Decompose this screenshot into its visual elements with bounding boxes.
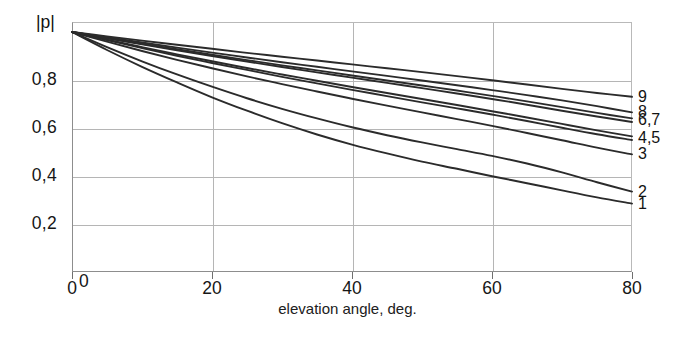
gridline-horizontal [73, 225, 631, 226]
x-axis-tick-label: 60 [462, 278, 522, 299]
x-axis-tick-label: 0 [42, 278, 102, 299]
x-axis-tick-label: 40 [322, 278, 382, 299]
chart-figure: |p| 00,20,40,60,8 020406080 986,74,5321 … [0, 0, 695, 341]
gridline-horizontal [73, 129, 631, 130]
y-axis-title: |p| [36, 12, 55, 33]
gridline-horizontal [73, 177, 631, 178]
y-axis-tick-label: 0,4 [32, 165, 57, 186]
x-axis-title: elevation angle, deg. [0, 300, 695, 317]
curve-end-label: 3 [638, 146, 647, 162]
curve-end-label: 4,5 [638, 130, 660, 146]
gridline-vertical [213, 23, 214, 271]
y-axis-tick-label: 0,8 [32, 69, 57, 90]
y-axis-tick-label: 0,2 [32, 213, 57, 234]
gridline-horizontal [73, 81, 631, 82]
curve-end-label: 6,7 [638, 112, 660, 128]
y-axis-tick-label: 0,6 [32, 117, 57, 138]
gridline-vertical [353, 23, 354, 271]
x-axis-tick-label: 20 [182, 278, 242, 299]
gridline-vertical [493, 23, 494, 271]
curve-end-label: 1 [638, 196, 647, 212]
x-axis-tick-label: 80 [602, 278, 662, 299]
curve-end-label: 9 [638, 89, 647, 105]
plot-area [72, 22, 632, 272]
